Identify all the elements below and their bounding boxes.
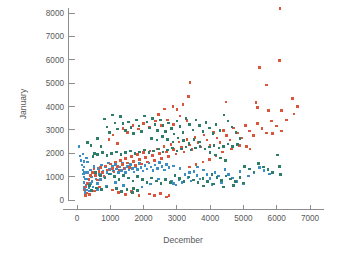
data-point [120, 153, 123, 156]
data-point [158, 161, 161, 164]
data-point [263, 169, 266, 172]
data-point [188, 123, 191, 126]
data-point [99, 166, 102, 169]
data-point [188, 176, 191, 179]
data-point [143, 115, 146, 118]
data-point [202, 169, 205, 172]
data-point [104, 177, 107, 180]
data-point [150, 177, 153, 180]
data-point [108, 138, 111, 141]
data-point [86, 141, 89, 144]
x-tick-label: 5000 [234, 214, 253, 223]
data-point [91, 171, 94, 174]
data-point [111, 167, 114, 170]
data-point [159, 192, 162, 195]
data-point [122, 184, 125, 187]
data-point [172, 165, 175, 168]
data-point [209, 151, 212, 154]
data-point [234, 180, 237, 183]
data-point [163, 169, 166, 172]
data-point [83, 166, 86, 169]
data-point [172, 141, 175, 144]
data-point [108, 173, 111, 176]
data-point [197, 181, 200, 184]
data-point [208, 127, 211, 130]
data-point [162, 151, 165, 154]
data-point [148, 193, 151, 196]
data-point [180, 148, 183, 151]
data-point [136, 153, 139, 156]
data-point [78, 145, 81, 148]
data-point [138, 158, 141, 161]
data-point [199, 145, 202, 148]
data-point [258, 66, 261, 69]
data-point [227, 173, 230, 176]
data-point [138, 194, 141, 197]
x-tick-label: 1000 [101, 214, 120, 223]
data-point [231, 126, 234, 129]
data-point [116, 142, 119, 145]
data-point [196, 166, 199, 169]
data-point [154, 120, 157, 123]
data-point [163, 145, 166, 148]
data-point [248, 130, 251, 133]
data-point [181, 181, 184, 184]
data-point [165, 196, 168, 199]
data-point [262, 166, 265, 169]
y-tick-label: 4000 [46, 103, 65, 112]
data-point [118, 178, 121, 181]
data-point [130, 155, 133, 158]
data-point [140, 130, 143, 133]
data-point [212, 132, 215, 135]
data-point [104, 165, 107, 168]
data-point [198, 124, 201, 127]
data-point [170, 143, 173, 146]
data-point [117, 171, 120, 174]
data-point [83, 189, 86, 192]
data-point [219, 129, 222, 132]
data-point [285, 119, 288, 122]
data-point [190, 149, 193, 152]
data-point [101, 151, 104, 154]
data-point [271, 171, 274, 174]
data-point [222, 186, 225, 189]
data-point [193, 170, 196, 173]
data-point [136, 189, 139, 192]
data-point [84, 186, 87, 189]
data-point [178, 141, 181, 144]
data-point [132, 132, 135, 135]
data-point [124, 171, 127, 174]
data-point [205, 121, 208, 124]
data-point [161, 135, 164, 138]
data-point [179, 115, 182, 118]
data-point [82, 153, 85, 156]
data-point [242, 182, 245, 185]
data-point [83, 171, 86, 174]
data-point [160, 157, 163, 160]
data-point [255, 101, 258, 104]
y-tick-label: 0 [59, 196, 64, 205]
data-point [239, 170, 242, 173]
data-point [195, 163, 198, 166]
data-point [164, 130, 167, 133]
data-point [187, 95, 190, 98]
data-point [176, 150, 179, 153]
data-point [202, 161, 205, 164]
data-point [108, 168, 111, 171]
data-point [114, 161, 117, 164]
data-point [153, 194, 156, 197]
data-point [115, 151, 118, 154]
data-point [97, 167, 100, 170]
data-point [122, 127, 125, 130]
data-point [100, 145, 103, 148]
data-point [149, 183, 152, 186]
data-point [136, 175, 139, 178]
data-point [225, 101, 228, 104]
data-point [239, 137, 242, 140]
data-point [219, 157, 222, 160]
data-point [179, 125, 182, 128]
data-point [222, 145, 225, 148]
data-point [126, 188, 129, 191]
data-point [157, 113, 160, 116]
data-point [143, 149, 146, 152]
